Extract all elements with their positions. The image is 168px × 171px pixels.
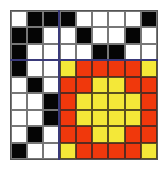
grid-cell xyxy=(108,60,124,76)
grid-cell xyxy=(125,93,141,109)
grid-cell xyxy=(27,126,43,142)
grid xyxy=(10,10,158,160)
grid-cell xyxy=(27,110,43,126)
grid-cell xyxy=(43,60,59,76)
grid-cell xyxy=(27,60,43,76)
grid-cell xyxy=(141,27,157,43)
grid-cell xyxy=(43,77,59,93)
grid-cell xyxy=(27,27,43,43)
grid-cell xyxy=(60,110,76,126)
grid-cell xyxy=(92,126,108,142)
grid-cell xyxy=(27,11,43,27)
grid-cell xyxy=(108,27,124,43)
grid-cell xyxy=(43,44,59,60)
grid-cell xyxy=(27,77,43,93)
vertical-divider-line xyxy=(58,10,60,160)
grid-cell xyxy=(92,11,108,27)
grid-cell xyxy=(11,60,27,76)
grid-cell xyxy=(27,44,43,60)
grid-cell xyxy=(76,126,92,142)
grid-cell xyxy=(92,77,108,93)
grid-cell xyxy=(108,11,124,27)
grid-cell xyxy=(108,77,124,93)
grid-cell xyxy=(125,27,141,43)
grid-cell xyxy=(108,143,124,159)
grid-cell xyxy=(43,93,59,109)
grid-cell xyxy=(141,110,157,126)
grid-cell xyxy=(11,77,27,93)
grid-cell xyxy=(125,44,141,60)
grid-cell xyxy=(11,110,27,126)
grid-cell xyxy=(92,93,108,109)
grid-cell xyxy=(43,110,59,126)
pixel-grid-diagram xyxy=(10,10,158,160)
grid-cell xyxy=(92,60,108,76)
grid-cell xyxy=(60,60,76,76)
horizontal-divider-line xyxy=(10,59,158,61)
grid-cell xyxy=(108,110,124,126)
grid-cell xyxy=(76,110,92,126)
grid-cell xyxy=(108,93,124,109)
grid-cell xyxy=(108,44,124,60)
grid-cell xyxy=(60,44,76,60)
grid-cell xyxy=(76,11,92,27)
grid-cell xyxy=(27,93,43,109)
grid-cell xyxy=(141,93,157,109)
grid-cell xyxy=(60,77,76,93)
grid-cell xyxy=(60,93,76,109)
grid-cell xyxy=(141,126,157,142)
grid-cell xyxy=(92,27,108,43)
grid-cell xyxy=(92,44,108,60)
grid-cell xyxy=(43,11,59,27)
grid-cell xyxy=(60,11,76,27)
grid-cell xyxy=(60,27,76,43)
grid-cell xyxy=(11,126,27,142)
grid-cell xyxy=(11,44,27,60)
grid-cell xyxy=(43,143,59,159)
grid-cell xyxy=(43,27,59,43)
grid-cell xyxy=(76,44,92,60)
grid-cell xyxy=(125,77,141,93)
grid-cell xyxy=(76,27,92,43)
grid-cell xyxy=(11,93,27,109)
grid-cell xyxy=(141,77,157,93)
grid-cell xyxy=(11,27,27,43)
grid-cell xyxy=(125,126,141,142)
grid-cell xyxy=(27,143,43,159)
grid-cell xyxy=(11,11,27,27)
grid-cell xyxy=(60,126,76,142)
grid-cell xyxy=(43,126,59,142)
grid-cell xyxy=(60,143,76,159)
grid-cell xyxy=(92,110,108,126)
grid-cell xyxy=(92,143,108,159)
grid-cell xyxy=(125,143,141,159)
grid-cell xyxy=(141,143,157,159)
grid-cell xyxy=(125,60,141,76)
grid-cell xyxy=(76,143,92,159)
grid-cell xyxy=(108,126,124,142)
grid-cell xyxy=(141,60,157,76)
grid-cell xyxy=(125,110,141,126)
grid-cell xyxy=(76,60,92,76)
grid-cell xyxy=(125,11,141,27)
grid-cell xyxy=(76,93,92,109)
grid-cell xyxy=(141,44,157,60)
grid-cell xyxy=(76,77,92,93)
grid-cell xyxy=(141,11,157,27)
grid-cell xyxy=(11,143,27,159)
